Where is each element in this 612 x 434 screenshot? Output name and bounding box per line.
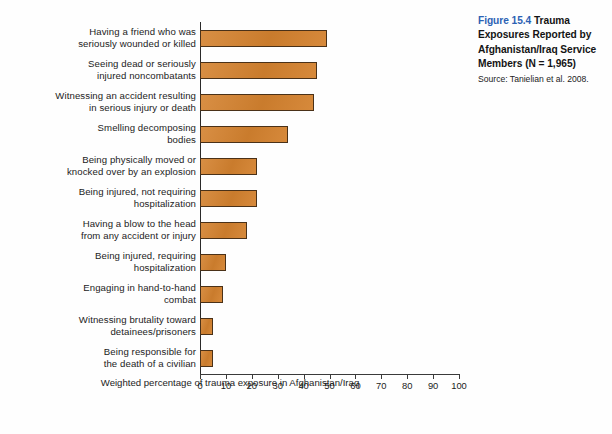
bar — [200, 222, 247, 239]
bar — [200, 62, 317, 79]
bar — [200, 30, 327, 47]
category-label-line: combat — [28, 294, 196, 306]
category-label-line: the death of a civilian — [28, 358, 196, 370]
caption-line-4: Members (N = 1,965) — [478, 57, 604, 71]
bar — [200, 126, 288, 143]
caption-line-2: Exposures Reported by — [478, 28, 604, 42]
category-label-line: Being injured, requiring — [28, 250, 196, 262]
bar — [200, 158, 257, 175]
category-label-line: Having a blow to the head — [28, 218, 196, 230]
category-label-line: Being injured, not requiring — [28, 186, 196, 198]
bar — [200, 190, 257, 207]
category-label: Witnessing an accident resultingin serio… — [28, 90, 196, 113]
category-label-line: knocked over by an explosion — [28, 166, 196, 178]
bar — [200, 254, 226, 271]
category-label: Engaging in hand-to-handcombat — [28, 282, 196, 305]
caption-line-1: Figure 15.4 Trauma — [478, 14, 604, 28]
category-label: Witnessing brutality towarddetainees/pri… — [28, 314, 196, 337]
category-label-line: Being physically moved or — [28, 154, 196, 166]
category-label: Being physically moved orknocked over by… — [28, 154, 196, 177]
category-label-line: in serious injury or death — [28, 102, 196, 114]
bar — [200, 350, 213, 367]
category-label: Having a blow to the headfrom any accide… — [28, 218, 196, 241]
category-axis-labels: Having a friend who wasseriously wounded… — [28, 22, 196, 374]
plot-area: 0102030405060708090100 — [200, 22, 459, 374]
category-label-line: Having a friend who was — [28, 26, 196, 38]
category-label: Having a friend who wasseriously wounded… — [28, 26, 196, 49]
category-label-line: from any accident or injury — [28, 230, 196, 242]
category-label-line: hospitalization — [28, 262, 196, 274]
category-label-line: Witnessing brutality toward — [28, 314, 196, 326]
category-label-line: Witnessing an accident resulting — [28, 90, 196, 102]
bar — [200, 318, 213, 335]
caption-source: Source: Tanielian et al. 2008. — [478, 74, 604, 85]
x-axis-title: Weighted percentage of trauma exposure i… — [0, 377, 460, 388]
category-label: Being injured, not requiringhospitalizat… — [28, 186, 196, 209]
category-label: Smelling decomposingbodies — [28, 122, 196, 145]
bar — [200, 286, 223, 303]
figure-number: Figure 15.4 — [478, 15, 531, 26]
category-label-line: seriously wounded or killed — [28, 38, 196, 50]
category-label: Seeing dead or seriouslyinjured noncomba… — [28, 58, 196, 81]
category-label-line: Smelling decomposing — [28, 122, 196, 134]
category-label-line: Seeing dead or seriously — [28, 58, 196, 70]
category-label: Being responsible forthe death of a civi… — [28, 346, 196, 369]
caption-line-3: Afghanistan/Iraq Service — [478, 43, 604, 57]
category-label-line: bodies — [28, 134, 196, 146]
figure-page: Having a friend who wasseriously wounded… — [0, 0, 612, 434]
bar-chart: Having a friend who wasseriously wounded… — [0, 0, 470, 434]
category-label-line: Engaging in hand-to-hand — [28, 282, 196, 294]
category-label-line: injured noncombatants — [28, 70, 196, 82]
caption-title-part-1: Trauma — [534, 15, 570, 26]
figure-caption: Figure 15.4 Trauma Exposures Reported by… — [478, 14, 604, 85]
bar — [200, 94, 314, 111]
category-label-line: hospitalization — [28, 198, 196, 210]
category-label: Being injured, requiringhospitalization — [28, 250, 196, 273]
category-label-line: detainees/prisoners — [28, 326, 196, 338]
category-label-line: Being responsible for — [28, 346, 196, 358]
